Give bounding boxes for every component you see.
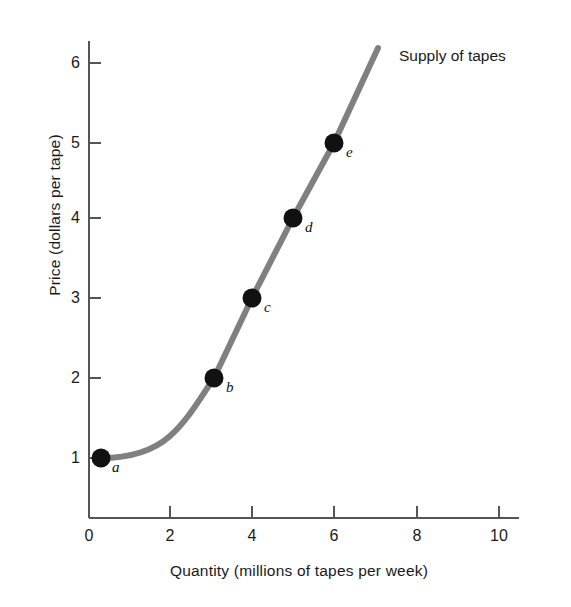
data-point-a xyxy=(92,449,111,468)
x-tick-label-2: 2 xyxy=(158,527,182,545)
data-point-label-a: a xyxy=(112,459,120,476)
x-tick-label-6: 6 xyxy=(322,527,346,545)
y-axis-title: Price (dollars per tape) xyxy=(46,65,64,365)
x-tick-label-8: 8 xyxy=(405,527,429,545)
data-point-label-e: e xyxy=(346,144,353,161)
x-tick-label-10: 10 xyxy=(487,527,511,545)
x-tick-label-0: 0 xyxy=(77,527,101,545)
supply-curve xyxy=(101,48,378,458)
data-point-c xyxy=(243,289,262,308)
y-tick-marks xyxy=(89,63,101,458)
data-point-e xyxy=(325,134,344,153)
x-axis-title: Quantity (millions of tapes per week) xyxy=(89,562,509,580)
plot-area xyxy=(0,0,571,607)
data-point-label-d: d xyxy=(305,219,313,236)
data-point-d xyxy=(284,209,303,228)
data-points xyxy=(92,134,344,468)
data-point-label-b: b xyxy=(226,379,234,396)
data-point-b xyxy=(205,369,224,388)
y-tick-label-1: 1 xyxy=(58,449,80,467)
x-tick-label-4: 4 xyxy=(240,527,264,545)
y-tick-label-2: 2 xyxy=(58,369,80,387)
supply-curve-figure: 1 2 3 4 5 6 0 2 4 6 8 10 a b c d e Suppl… xyxy=(0,0,571,607)
x-tick-marks xyxy=(170,506,499,518)
data-point-label-c: c xyxy=(264,299,271,316)
supply-curve-label: Supply of tapes xyxy=(399,47,506,65)
